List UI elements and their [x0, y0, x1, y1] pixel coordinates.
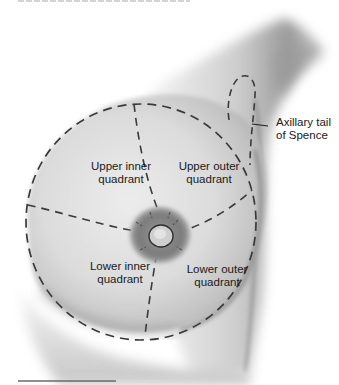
label-line: quadrant [76, 173, 166, 186]
label-line: Upper outer [164, 160, 254, 173]
label-line: Upper inner [76, 160, 166, 173]
breast-illustration [0, 0, 339, 385]
label-line: quadrant [172, 276, 262, 289]
label-lower-inner-quadrant: Lower inner quadrant [75, 260, 165, 285]
label-axillary-tail-of-spence: Axillary tail of Spence [276, 116, 331, 141]
label-line: quadrant [164, 173, 254, 186]
label-lower-outer-quadrant: Lower outer quadrant [172, 263, 262, 288]
label-upper-outer-quadrant: Upper outer quadrant [164, 160, 254, 185]
breast-quadrants-diagram: Upper inner quadrant Upper outer quadran… [0, 0, 339, 385]
label-line: Axillary tail [276, 116, 331, 129]
label-upper-inner-quadrant: Upper inner quadrant [76, 160, 166, 185]
label-line: Lower inner [75, 260, 165, 273]
label-line: quadrant [75, 273, 165, 286]
label-line: Lower outer [172, 263, 262, 276]
label-line: of Spence [276, 129, 331, 142]
